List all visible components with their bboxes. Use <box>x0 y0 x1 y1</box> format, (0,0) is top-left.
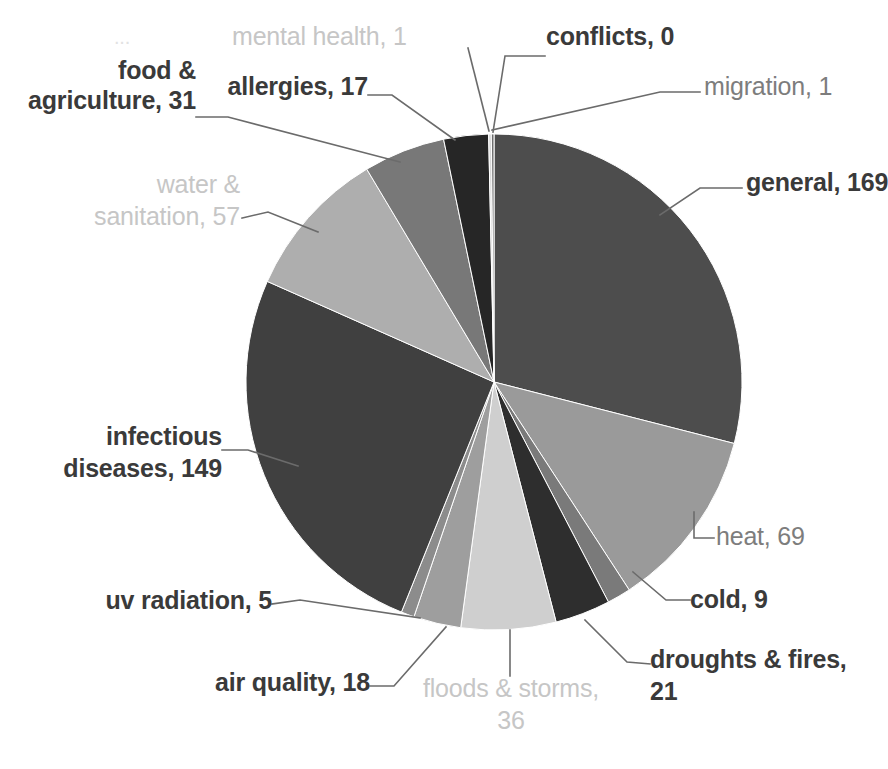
pie-label-conflicts: conflicts, 0 <box>546 22 674 52</box>
leader-line-mental-health <box>468 48 489 131</box>
pie-label-floods-storms-line2: 36 <box>372 706 650 736</box>
pie-label-air-quality: air quality, 18 <box>140 668 370 698</box>
pie-label-allergies: allergies, 17 <box>140 72 368 102</box>
pie-label-droughts-fires-line1: droughts & fires, <box>650 645 847 675</box>
pie-label-migration: migration, 1 <box>704 72 832 102</box>
pie-label-heat: heat, 69 <box>716 522 805 552</box>
leader-line-migration <box>492 92 700 130</box>
pie-label-uv-radiation: uv radiation, 5 <box>40 586 272 616</box>
pie-label-infectious-diseases-line1: infectious <box>0 422 222 452</box>
pie-label-cold: cold, 9 <box>690 585 768 615</box>
pie-label-general: general, 169 <box>746 168 888 198</box>
pie-chart-figure: ... mental health, 1 conflicts, 0 migrat… <box>0 0 888 769</box>
pie-slices-group <box>246 134 742 630</box>
leader-line-allergies <box>368 95 455 140</box>
pie-label-water-sanitation-line1: water & <box>0 170 240 200</box>
pie-label-infectious-diseases-line2: diseases, 149 <box>0 454 222 484</box>
pie-label-water-sanitation-line2: sanitation, 57 <box>0 202 240 232</box>
leader-line-droughts-fires <box>585 620 650 664</box>
leader-line-food-agriculture <box>196 117 400 162</box>
pie-label-droughts-fires-line2: 21 <box>650 677 677 707</box>
leader-line-conflicts <box>493 56 545 132</box>
pie-label-mental-health: mental health, 1 <box>232 22 407 52</box>
ghost-text-top-left: ... <box>114 26 130 50</box>
pie-label-floods-storms-line1: floods & storms, <box>372 674 650 704</box>
